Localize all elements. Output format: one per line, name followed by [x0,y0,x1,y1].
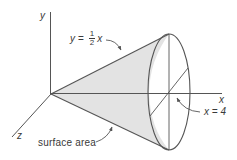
z-axis-label: z [17,131,22,141]
boundary-label: x = 4 [204,107,226,117]
fraction-denominator: 2 [89,39,95,47]
x-axis-label: x [219,95,224,105]
equation-lhs: y [70,34,75,44]
diagram-canvas [0,0,237,160]
surface-area-leader-arrow [96,127,112,142]
equation-leader-arrow [106,40,121,50]
surface-area-label: surface area [38,138,96,148]
cone-surface-fill [51,34,169,150]
equation-fraction: 1 2 [89,30,95,47]
cone-surface-area-diagram: y x z y = 1 2 x x = 4 surface area [0,0,237,160]
curve-equation-label: y = 1 2 x [70,30,102,47]
y-axis-label: y [40,11,45,21]
equation-equals: = [78,34,84,44]
equation-rhs-variable: x [97,34,102,44]
